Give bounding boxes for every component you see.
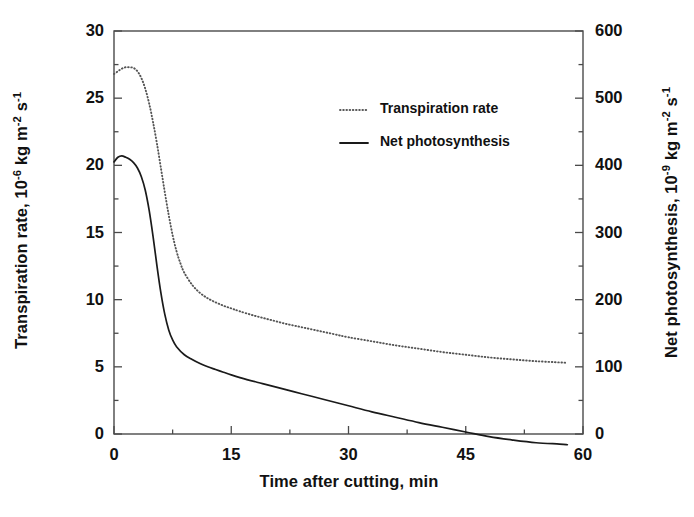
- y2-axis-tick-label: 300: [595, 223, 645, 242]
- data-series: [114, 67, 567, 445]
- y2-axis-tick-label: 500: [595, 88, 645, 107]
- x-axis-tick-label: 15: [206, 445, 256, 464]
- chart-figure: Transpiration rate, 10-6 kg m-2 s-1 Net …: [0, 0, 694, 517]
- x-axis-tick-label: 0: [89, 445, 139, 464]
- plot-area: [0, 0, 694, 517]
- axis-ticks: [114, 31, 583, 434]
- y2-axis-tick-label: 100: [595, 357, 645, 376]
- x-axis-tick-label: 45: [441, 445, 491, 464]
- x-axis-tick-label: 30: [324, 445, 374, 464]
- y2-axis-tick-label: 0: [595, 424, 645, 443]
- legend-label-net-photosynthesis: Net photosynthesis: [380, 133, 510, 149]
- legend-label-transpiration-rate: Transpiration rate: [380, 100, 498, 116]
- y2-axis-tick-label: 400: [595, 155, 645, 174]
- plot-frame: [114, 31, 583, 434]
- y-axis-tick-label: 30: [62, 21, 104, 40]
- y2-axis-tick-label: 200: [595, 290, 645, 309]
- y-axis-tick-label: 20: [62, 155, 104, 174]
- y-axis-tick-label: 5: [62, 357, 104, 376]
- y-axis-tick-label: 0: [62, 424, 104, 443]
- plot-border: [114, 31, 583, 434]
- y-axis-tick-label: 25: [62, 88, 104, 107]
- x-axis-tick-label: 60: [558, 445, 608, 464]
- y-axis-tick-label: 10: [62, 290, 104, 309]
- legend-markers: [340, 110, 368, 143]
- y2-axis-tick-label: 600: [595, 21, 645, 40]
- y-axis-tick-label: 15: [62, 223, 104, 242]
- series-line-transpiration-rate: [114, 67, 567, 363]
- series-line-net-photosynthesis: [114, 156, 567, 445]
